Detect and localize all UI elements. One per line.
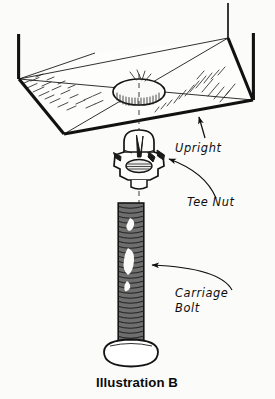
carriage-bolt-part (104, 203, 158, 367)
annotation-carriage-bolt: Carriage Bolt (152, 265, 232, 315)
annotation-tee-nut: Tee Nut (169, 159, 235, 209)
upright-leader-line (199, 117, 205, 138)
tee-nut-label: Tee Nut (187, 195, 235, 209)
upright-panel (19, 3, 254, 134)
tee-nut-collar (131, 180, 147, 189)
upright-label: Upright (175, 141, 222, 155)
tee-nut-bore (126, 160, 152, 173)
carriage-bolt-label-line2: Bolt (175, 301, 200, 315)
technical-illustration-figure: Upright Tee Nut Carriage Bolt Illustrati… (0, 0, 275, 399)
tee-nut-leader-line (169, 159, 216, 198)
illustration-page: Upright Tee Nut Carriage Bolt Illustrati… (0, 0, 275, 399)
figure-caption: Illustration B (96, 375, 178, 390)
carriage-bolt-label-line1: Carriage (175, 286, 228, 300)
tee-nut-part (114, 130, 165, 189)
annotation-upright: Upright (175, 117, 222, 155)
